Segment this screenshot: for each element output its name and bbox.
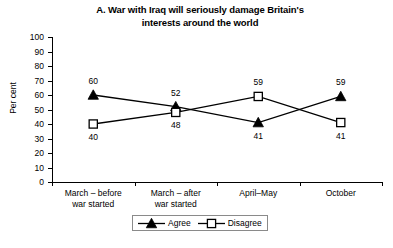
marker-filled-triangle (336, 91, 346, 100)
marker-open-square (89, 120, 97, 128)
data-value-label: 41 (328, 132, 354, 141)
series-plot (0, 0, 393, 248)
chart-legend: AgreeDisagree (132, 215, 268, 231)
marker-filled-triangle (88, 90, 98, 99)
data-value-label: 59 (245, 78, 271, 87)
data-value-label: 41 (245, 132, 271, 141)
legend-entry-disagree[interactable]: Disagree (198, 218, 262, 229)
marker-open-square (337, 118, 345, 126)
marker-open-square (254, 92, 262, 100)
legend-label: Disagree (228, 219, 262, 228)
data-value-label: 40 (80, 133, 106, 142)
data-value-label: 52 (163, 89, 189, 98)
data-value-label: 60 (80, 77, 106, 86)
legend-triangle-icon (138, 218, 165, 229)
legend-entry-agree[interactable]: Agree (138, 218, 191, 229)
data-value-label: 59 (328, 78, 354, 87)
marker-open-square (172, 108, 180, 116)
legend-label: Agree (168, 219, 191, 228)
legend-square-icon (198, 218, 225, 229)
data-value-label: 48 (163, 121, 189, 130)
marker-open-square (207, 219, 215, 227)
